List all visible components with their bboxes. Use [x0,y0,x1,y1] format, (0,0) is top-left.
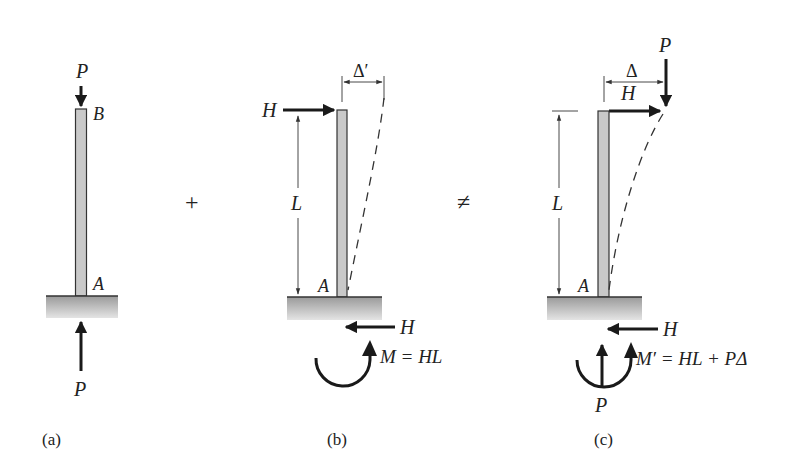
p-delta-diagram: P B A P (a) + Δ′ H L A H [0,0,804,473]
deflected-shape-b [348,98,384,290]
deflected-shape-c [609,114,663,290]
column-c [598,111,609,297]
lateral-load-label-h: H [620,82,637,104]
length-label-l: L [551,192,563,214]
deflection-label-delta-prime: Δ′ [353,61,369,81]
panel-b: Δ′ H L A H M = HL (b) [261,61,442,449]
ground-support-a [46,296,118,318]
ground-support-b [287,297,382,320]
ground-support-c [547,297,642,320]
reaction-moment-label: M′ = HL + PΔ [635,348,747,369]
column-a [76,109,87,296]
plus-operator: + [185,189,199,215]
reaction-shear-label-h: H [399,316,416,338]
node-label-a: A [317,276,330,296]
panel-a: P B A P (a) [42,60,118,449]
reaction-axial-label-p: P [594,394,607,416]
node-label-a: A [577,276,590,296]
node-label-a: A [92,274,105,294]
column-b [337,110,347,297]
moment-arc [577,354,631,387]
reaction-moment-label: M = HL [379,346,442,367]
caption-b: (b) [327,430,347,449]
node-label-b: B [93,104,104,124]
moment-arc [316,352,370,386]
lateral-load-label-h: H [261,99,278,121]
not-equal-operator: ≠ [457,189,470,215]
axial-load-label-p: P [658,34,671,56]
moment-arrow-icon [362,340,377,356]
deflection-label-delta: Δ [626,61,638,81]
panel-c: P Δ H L A H P M′ = HL + PΔ (c) [547,34,747,449]
load-label-p-top: P [75,60,88,82]
reaction-shear-label-h: H [662,318,679,340]
caption-c: (c) [594,430,613,449]
reaction-label-p: P [73,378,86,400]
caption-a: (a) [42,430,61,449]
length-label-l: L [290,192,302,214]
